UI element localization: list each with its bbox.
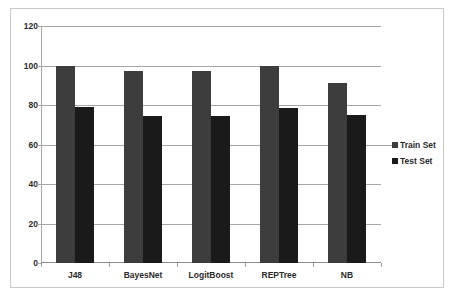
bar-j48-test-set: [75, 107, 94, 263]
x-axis-tick-label: REPTree: [262, 270, 297, 280]
bar-nb-test-set: [347, 115, 366, 263]
bar-bayesnet-train-set: [124, 71, 143, 263]
y-tick-100: [37, 66, 41, 67]
y-tick-20: [37, 224, 41, 225]
bars-layer: [41, 26, 381, 263]
bar-group: [109, 26, 177, 263]
y-tick-60: [37, 145, 41, 146]
bar-chart-figure: 020406080100120 J48BayesNetLogitBoostREP…: [0, 0, 454, 301]
train-swatch-icon: [392, 142, 398, 148]
bar-bayesnet-test-set: [143, 116, 162, 263]
bar-logitboost-train-set: [192, 71, 211, 263]
bar-reptree-train-set: [260, 66, 279, 264]
legend-item: Train Set: [392, 137, 442, 153]
x-axis-tick-label: LogitBoost: [189, 270, 234, 280]
x-axis: J48BayesNetLogitBoostREPTreeNB: [41, 263, 381, 289]
x-tick-edge: [41, 263, 42, 267]
legend-connector-line: [381, 145, 392, 146]
bar-group: [177, 26, 245, 263]
y-axis-labels: 020406080100120: [11, 26, 38, 263]
y-axis-tick-label: 120: [24, 22, 38, 31]
bar-j48-train-set: [56, 66, 75, 264]
bar-reptree-test-set: [279, 108, 298, 263]
y-tick-120: [37, 26, 41, 27]
y-axis-tick-label: 100: [24, 61, 38, 70]
y-tick-80: [37, 105, 41, 106]
plot-area: [41, 26, 381, 263]
x-tick: [177, 263, 178, 267]
chart-frame: 020406080100120 J48BayesNetLogitBoostREP…: [10, 8, 444, 288]
bar-logitboost-test-set: [211, 116, 230, 263]
legend-item: Test Set: [392, 153, 442, 169]
x-tick: [313, 263, 314, 267]
x-tick: [245, 263, 246, 267]
x-tick-edge: [381, 263, 382, 267]
y-tick-40: [37, 184, 41, 185]
x-axis-tick-label: J48: [68, 270, 82, 280]
bar-group: [245, 26, 313, 263]
bar-group: [313, 26, 381, 263]
bar-group: [41, 26, 109, 263]
legend-item-label: Test Set: [400, 157, 432, 166]
x-tick: [109, 263, 110, 267]
chart-legend: Train SetTest Set: [392, 137, 442, 169]
legend-item-label: Train Set: [400, 141, 436, 150]
x-axis-tick-label: BayesNet: [124, 270, 163, 280]
bar-nb-train-set: [328, 83, 347, 263]
test-swatch-icon: [392, 158, 398, 164]
x-axis-tick-label: NB: [341, 270, 353, 280]
